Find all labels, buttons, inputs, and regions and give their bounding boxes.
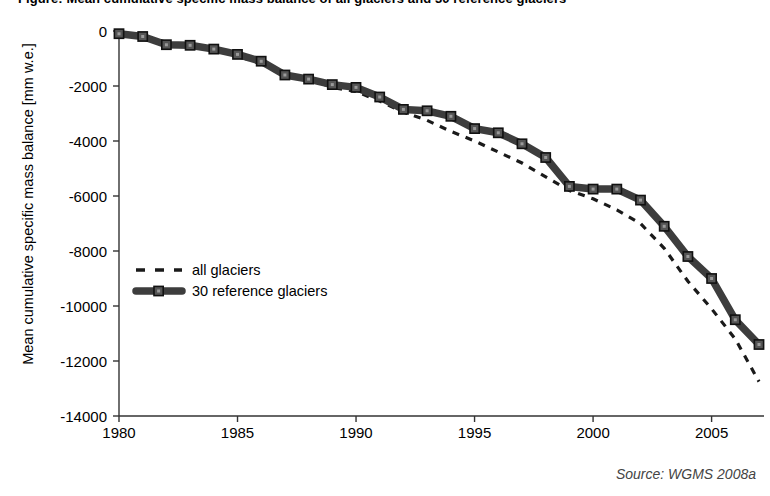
series-marker-center [165, 43, 168, 46]
series-marker-center [307, 78, 310, 81]
series-marker-center [521, 142, 524, 145]
series-marker-center [378, 96, 381, 99]
series-marker-center [663, 225, 666, 228]
series-marker-center [426, 109, 429, 112]
series-marker-center [331, 83, 334, 86]
series-marker-center [402, 108, 405, 111]
series-marker-center [189, 44, 192, 47]
series-marker-center [473, 127, 476, 130]
series-marker-center [355, 86, 358, 89]
series-marker-center [615, 188, 618, 191]
series-marker-center [592, 188, 595, 191]
series-marker-center [544, 156, 547, 159]
series-marker-center [236, 53, 239, 56]
series-marker-center [141, 35, 144, 38]
series-marker-center [118, 32, 121, 35]
series-marker-center [497, 131, 500, 134]
chart-figure: Figure: Mean cumulative specific mass ba… [0, 0, 770, 496]
series-marker-center [283, 74, 286, 77]
legend-swatch-marker-center [157, 290, 160, 293]
series-marker-center [568, 185, 571, 188]
source-note: Source: WGMS 2008a [616, 466, 756, 482]
series-line-all-glaciers [119, 34, 759, 382]
series-marker-center [449, 115, 452, 118]
legend-glyphs [136, 270, 182, 296]
series-marker-center [686, 255, 689, 258]
series-marker-center [260, 60, 263, 63]
series-marker-center [639, 199, 642, 202]
legend-label-all-glaciers: all glaciers [192, 262, 261, 278]
plot-area [0, 0, 770, 496]
series-marker-center [710, 277, 713, 280]
series-marker-center [758, 343, 761, 346]
series-marker-center [734, 318, 737, 321]
data-series-layer [114, 29, 763, 382]
series-marker-center [212, 48, 215, 51]
legend-label-reference-glaciers: 30 reference glaciers [192, 283, 327, 299]
